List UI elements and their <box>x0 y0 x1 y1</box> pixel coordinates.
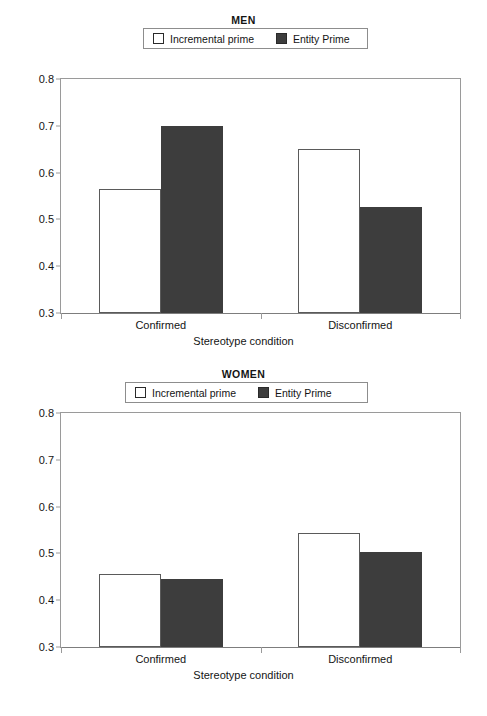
chart-title-women: WOMEN <box>0 368 487 380</box>
legend-entry-entity-prime: Entity Prime <box>276 33 350 45</box>
x-axis-category-label: Confirmed <box>135 653 186 665</box>
x-axis-label-men: Stereotype condition <box>0 335 487 347</box>
y-axis-tick-mark <box>56 506 61 507</box>
legend-entry-entity-prime: Entity Prime <box>258 387 332 399</box>
plot-area-men: 0.30.40.50.60.70.8 ConfirmedDisconfirmed <box>60 78 461 314</box>
bar <box>360 207 422 313</box>
legend-swatch-solid-icon <box>276 33 287 44</box>
x-axis-category-label: Disconfirmed <box>328 653 392 665</box>
chart-panel-men: MEN Incremental prime Entity Prime 0.30.… <box>0 0 487 356</box>
bar <box>298 149 360 313</box>
y-axis-tick-mark <box>56 125 61 126</box>
x-axis-tick-mark <box>61 313 62 319</box>
x-axis-category-label: Confirmed <box>135 319 186 331</box>
y-axis-tick-mark <box>56 600 61 601</box>
x-axis-tick-mark <box>61 647 62 653</box>
bar <box>161 126 223 313</box>
legend-entry-incremental-prime: Incremental prime <box>135 387 236 399</box>
x-axis-tick-mark <box>261 313 262 319</box>
y-axis-tick-mark <box>56 219 61 220</box>
legend-swatch-open-icon <box>153 33 164 44</box>
legend-label-incremental-prime: Incremental prime <box>152 387 236 399</box>
y-axis-tick-mark <box>56 79 61 80</box>
x-axis-tick-mark <box>261 647 262 653</box>
y-axis-tick-mark <box>56 459 61 460</box>
x-axis-tick-mark <box>460 313 461 319</box>
x-axis-tick-mark <box>460 647 461 653</box>
x-axis-category-label: Disconfirmed <box>328 319 392 331</box>
y-axis-tick-mark <box>56 266 61 267</box>
legend-label-incremental-prime: Incremental prime <box>170 33 254 45</box>
bar <box>161 579 223 647</box>
legend-entry-incremental-prime: Incremental prime <box>153 33 254 45</box>
legend-swatch-solid-icon <box>258 387 269 398</box>
legend-men: Incremental prime Entity Prime <box>143 28 368 49</box>
chart-title-men: MEN <box>0 14 487 26</box>
bar <box>360 552 422 647</box>
bar <box>99 574 161 647</box>
legend-label-entity-prime: Entity Prime <box>275 387 332 399</box>
y-axis-tick-mark <box>56 413 61 414</box>
plot-area-women: 0.30.40.50.60.70.8 ConfirmedDisconfirmed <box>60 412 461 648</box>
x-axis-label-women: Stereotype condition <box>0 669 487 681</box>
bar <box>99 189 161 313</box>
bar <box>298 533 360 647</box>
y-axis-tick-mark <box>56 172 61 173</box>
chart-panel-women: WOMEN Incremental prime Entity Prime 0.3… <box>0 356 487 716</box>
y-axis-tick-mark <box>56 553 61 554</box>
legend-swatch-open-icon <box>135 387 146 398</box>
legend-women: Incremental prime Entity Prime <box>125 382 368 403</box>
legend-label-entity-prime: Entity Prime <box>293 33 350 45</box>
